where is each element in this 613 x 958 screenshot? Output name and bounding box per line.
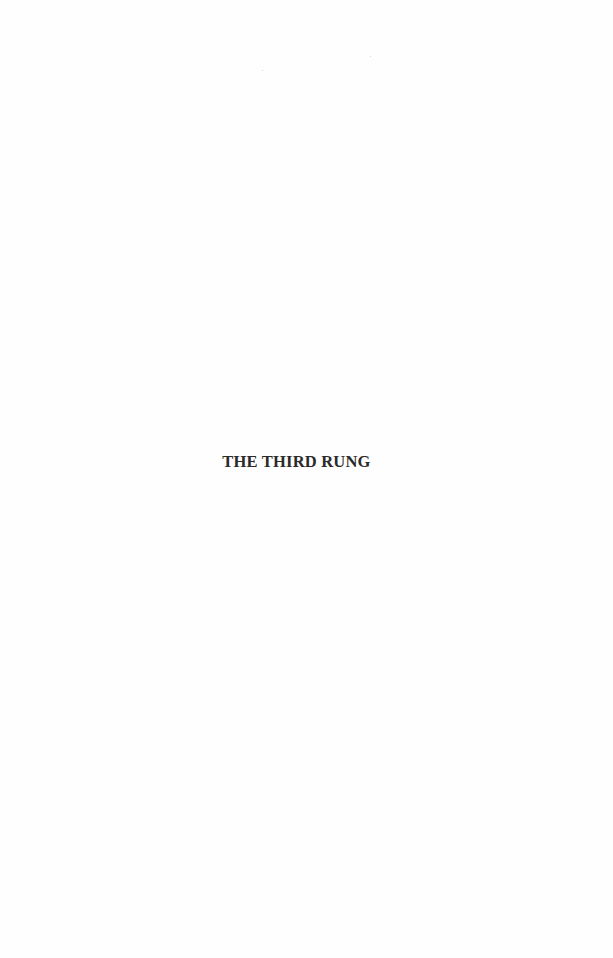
- page-title: THE THIRD RUNG: [0, 452, 593, 472]
- document-page: THE THIRD RUNG: [0, 0, 613, 958]
- scan-speck: [370, 56, 371, 57]
- scan-speck: [262, 70, 263, 71]
